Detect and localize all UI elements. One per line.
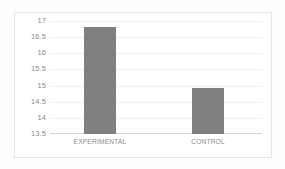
gridline [50,102,262,103]
y-axis-tick-labels: 17 16.5 16 15.5 15 14.5 14 13.5 [0,21,46,134]
x-tick-label-experimental: EXPERIMENTAL [56,139,144,146]
x-tick-label-control: CONTROL [164,139,252,146]
bar-control[interactable] [192,88,224,134]
gridline [50,69,262,70]
x-axis-baseline [50,133,262,134]
y-tick-label: 14 [2,114,46,122]
y-tick-label: 13.5 [2,130,46,138]
y-tick-label: 15.5 [2,66,46,74]
chart-screenshot: 17 16.5 16 15.5 15 14.5 14 13.5 EXPERIME… [0,0,285,169]
gridline [50,53,262,54]
gridline [50,86,262,87]
y-tick-label: 16 [2,50,46,58]
gridline [50,21,262,22]
y-tick-label: 15 [2,82,46,90]
gridline [50,118,262,119]
gridline [50,37,262,38]
y-tick-label: 17 [2,17,46,25]
bar-experimental[interactable] [84,27,116,134]
y-tick-label: 14.5 [2,98,46,106]
y-tick-label: 16.5 [2,33,46,41]
plot-area [50,21,262,134]
